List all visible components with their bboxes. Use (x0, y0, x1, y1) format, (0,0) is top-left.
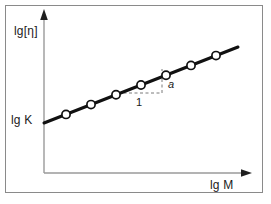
data-point (87, 101, 95, 109)
data-point (137, 81, 145, 89)
data-point (212, 52, 220, 60)
data-point (62, 110, 70, 118)
data-point (187, 61, 195, 69)
y-axis-label: lg[η] (14, 24, 38, 38)
slope-run-label: 1 (136, 96, 142, 108)
data-point (112, 91, 120, 99)
data-point-markers (62, 52, 220, 119)
slope-rise-label: a (168, 78, 174, 90)
intercept-label: lg K (11, 113, 32, 127)
x-axis-arrow-icon (241, 169, 252, 177)
y-axis-arrow-icon (40, 9, 48, 20)
figure-container: lg[η] lg M lg K a 1 (0, 0, 271, 204)
x-axis-label: lg M (210, 178, 233, 192)
